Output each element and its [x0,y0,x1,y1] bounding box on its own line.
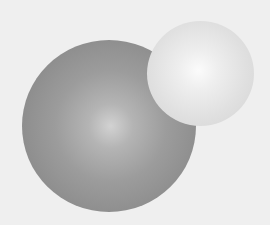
small-light-sphere [147,21,254,126]
sphere-scene [0,0,270,225]
